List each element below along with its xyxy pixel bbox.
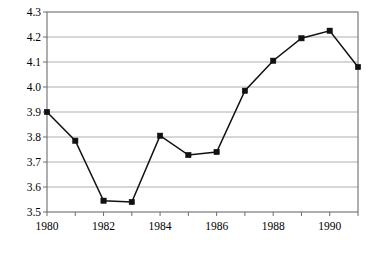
data-point-marker xyxy=(242,88,247,93)
y-axis-tick-label: 3.6 xyxy=(27,181,42,193)
x-axis-tick-label: 1990 xyxy=(318,220,341,232)
data-point-marker xyxy=(299,36,304,41)
data-point-marker xyxy=(101,198,106,203)
y-axis-tick-label: 4.1 xyxy=(27,56,42,68)
data-point-marker xyxy=(44,109,49,114)
data-point-marker xyxy=(270,58,275,63)
x-axis-tick-label: 1984 xyxy=(149,220,172,232)
line-chart: 3.53.63.73.83.94.04.14.24.3 198019821984… xyxy=(0,0,370,256)
data-point-marker xyxy=(327,28,332,33)
y-axis-tick-label: 3.8 xyxy=(27,131,42,143)
data-point-marker xyxy=(355,64,360,69)
x-axis-tick-label: 1986 xyxy=(205,220,228,232)
chart-canvas: 3.53.63.73.83.94.04.14.24.3 198019821984… xyxy=(0,0,370,256)
data-point-marker xyxy=(214,149,219,154)
data-point-marker xyxy=(157,133,162,138)
x-axis-tick-label: 1988 xyxy=(262,220,285,232)
x-axis-tick-label: 1982 xyxy=(92,220,115,232)
y-axis-tick-label: 3.5 xyxy=(27,206,42,218)
x-axis-tick-label: 1980 xyxy=(36,220,59,232)
data-point-marker xyxy=(186,152,191,157)
data-point-marker xyxy=(129,199,134,204)
y-axis-tick-label: 4.2 xyxy=(27,31,42,43)
chart-background xyxy=(0,0,370,256)
y-axis-tick-label: 3.9 xyxy=(27,106,42,118)
y-axis-tick-label: 4.3 xyxy=(27,6,42,18)
data-point-marker xyxy=(73,138,78,143)
y-axis-tick-label: 4.0 xyxy=(27,81,42,93)
y-axis-tick-label: 3.7 xyxy=(27,156,42,168)
